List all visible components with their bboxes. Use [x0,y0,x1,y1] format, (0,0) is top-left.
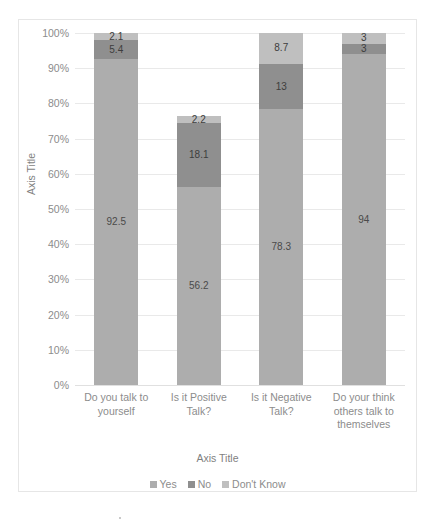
bar-segment-yes[interactable]: 56.2 [177,187,221,385]
bar-segment-don-t-know[interactable]: 2.2 [177,116,221,124]
plot-area: 0%10%20%30%40%50%60%70%80%90%100% 2.15.4… [75,33,405,385]
chart-title [19,6,416,17]
data-label: 8.7 [274,43,288,53]
x-axis-category-label: Is it Positive Talk? [158,391,241,418]
y-axis-tick-label: 10% [48,344,69,356]
stacked-bar[interactable]: 2.15.492.5 [94,33,138,385]
gridline [75,385,405,386]
data-label: 56.2 [189,281,208,291]
data-label: 94 [358,215,369,225]
y-axis-tick-label: 40% [48,238,69,250]
bar-group[interactable]: 2.15.492.5 [75,33,158,385]
stacked-bar[interactable]: 8.71378.3 [259,33,303,385]
chart-legend: YesNoDon't Know [19,478,416,490]
legend-item[interactable]: No [188,478,211,490]
bar-segment-no[interactable]: 13 [259,64,303,110]
bar-segment-no[interactable]: 5.4 [94,40,138,59]
legend-label: Don't Know [232,478,285,490]
y-axis-tick-label: 90% [48,62,69,74]
y-axis-tick-label: 80% [48,97,69,109]
bar-segment-don-t-know[interactable]: 3 [342,33,386,44]
legend-item[interactable]: Don't Know [222,478,285,490]
y-axis-tick-label: 30% [48,273,69,285]
bar-segment-no[interactable]: 18.1 [177,123,221,187]
y-axis-tick-label: 100% [42,27,69,39]
x-axis-category-label: Do your think others talk to themselves [323,391,406,432]
bar-series-group: 2.15.492.52.218.156.28.71378.33394 [75,33,405,385]
data-label: 5.4 [109,45,123,55]
stray-artifact [119,517,121,519]
bar-segment-yes[interactable]: 94 [342,54,386,385]
y-axis-tick-label: 20% [48,309,69,321]
legend-label: Yes [160,478,177,490]
data-label: 92.5 [107,217,126,227]
bar-group[interactable]: 3394 [323,33,406,385]
y-axis-tick-label: 50% [48,203,69,215]
stacked-bar[interactable]: 2.218.156.2 [177,116,221,385]
data-label: 3 [361,33,367,43]
y-axis-tick-label: 70% [48,133,69,145]
data-label: 18.1 [189,150,208,160]
data-label: 3 [361,44,367,54]
legend-label: No [198,478,211,490]
bar-segment-don-t-know[interactable]: 2.1 [94,33,138,40]
chart-container: Axis Title 0%10%20%30%40%50%60%70%80%90%… [18,19,417,492]
legend-item[interactable]: Yes [150,478,177,490]
x-axis-category-label: Is it Negative Talk? [240,391,323,418]
bar-segment-no[interactable]: 3 [342,44,386,55]
x-axis-category-label: Do you talk to yourself [75,391,158,418]
y-axis-title: Axis Title [25,153,37,195]
bar-group[interactable]: 2.218.156.2 [158,33,241,385]
bar-segment-yes[interactable]: 92.5 [94,59,138,385]
y-axis-tick-label: 0% [54,379,69,391]
legend-swatch-icon [222,481,229,488]
legend-swatch-icon [150,481,157,488]
bar-segment-don-t-know[interactable]: 8.7 [259,33,303,64]
x-axis-title: Axis Title [19,452,416,464]
bar-segment-yes[interactable]: 78.3 [259,109,303,385]
x-axis-tick-labels: Do you talk to yourselfIs it Positive Ta… [75,391,405,451]
bar-group[interactable]: 8.71378.3 [240,33,323,385]
data-label: 78.3 [272,242,291,252]
data-label: 13 [276,82,287,92]
stacked-bar[interactable]: 3394 [342,33,386,385]
y-axis-tick-label: 60% [48,168,69,180]
legend-swatch-icon [188,481,195,488]
